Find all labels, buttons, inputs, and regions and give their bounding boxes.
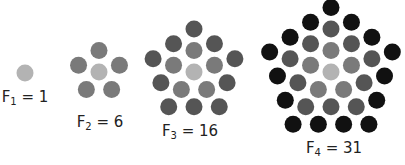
label-letter: F bbox=[162, 122, 171, 140]
dot bbox=[91, 64, 108, 81]
dot bbox=[285, 116, 302, 133]
label-f1: F1 = 1 bbox=[2, 88, 49, 107]
dot bbox=[261, 44, 278, 61]
dot bbox=[302, 14, 319, 31]
dot bbox=[165, 35, 182, 52]
dot bbox=[282, 29, 299, 46]
dot bbox=[323, 98, 340, 115]
dot bbox=[323, 64, 340, 81]
dot bbox=[384, 44, 401, 61]
dot bbox=[78, 81, 95, 98]
dot bbox=[160, 98, 177, 115]
label-letter: F bbox=[306, 139, 315, 157]
dot bbox=[343, 35, 360, 52]
dot bbox=[211, 98, 228, 115]
dot bbox=[302, 35, 319, 52]
dot bbox=[343, 14, 360, 31]
dot bbox=[165, 57, 182, 74]
dot bbox=[360, 116, 377, 133]
dot bbox=[323, 21, 340, 38]
dot bbox=[277, 92, 294, 109]
dot bbox=[103, 81, 120, 98]
dot bbox=[145, 50, 162, 67]
dot bbox=[335, 116, 352, 133]
dot bbox=[186, 64, 203, 81]
dot bbox=[186, 21, 203, 38]
dot bbox=[111, 57, 128, 74]
label-letter: F bbox=[2, 88, 11, 106]
dot bbox=[206, 57, 223, 74]
figure-f3 bbox=[145, 21, 244, 116]
label-value: = 6 bbox=[92, 113, 124, 131]
dot bbox=[206, 35, 223, 52]
dot bbox=[219, 74, 236, 91]
dot bbox=[70, 57, 87, 74]
dot bbox=[186, 98, 203, 115]
figure-f4 bbox=[261, 0, 401, 133]
figure-f2 bbox=[70, 42, 128, 98]
dot bbox=[323, 42, 340, 59]
dot bbox=[302, 57, 319, 74]
dot bbox=[368, 92, 385, 109]
dot bbox=[323, 0, 340, 16]
dot bbox=[335, 81, 352, 98]
label-value: = 16 bbox=[177, 122, 218, 140]
dot bbox=[376, 68, 393, 85]
label-value: = 1 bbox=[17, 88, 49, 106]
label-value: = 31 bbox=[321, 139, 362, 157]
dot bbox=[297, 98, 314, 115]
label-f3: F3 = 16 bbox=[162, 122, 218, 141]
label-f4: F4 = 31 bbox=[306, 139, 362, 158]
dot bbox=[282, 50, 299, 67]
dot bbox=[152, 74, 169, 91]
dot bbox=[173, 81, 190, 98]
label-letter: F bbox=[77, 113, 86, 131]
dot bbox=[343, 57, 360, 74]
dot bbox=[17, 65, 34, 82]
dot bbox=[310, 116, 327, 133]
dot bbox=[269, 68, 286, 85]
dot bbox=[348, 98, 365, 115]
dot bbox=[310, 81, 327, 98]
dot bbox=[226, 50, 243, 67]
label-f2: F2 = 6 bbox=[77, 113, 124, 132]
dot bbox=[289, 74, 306, 91]
dot bbox=[363, 50, 380, 67]
dot bbox=[186, 42, 203, 59]
dot bbox=[363, 29, 380, 46]
dot bbox=[356, 74, 373, 91]
dot bbox=[91, 42, 108, 59]
dot bbox=[198, 81, 215, 98]
figure-f1 bbox=[17, 65, 34, 82]
